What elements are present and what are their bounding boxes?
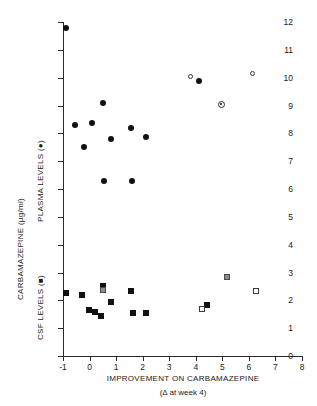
y-axis-tick-label: 1 (253, 324, 293, 333)
data-point (100, 100, 106, 106)
data-point (98, 313, 104, 319)
data-point (86, 307, 92, 313)
y-axis-tick (58, 133, 63, 134)
y-axis-tick (58, 22, 63, 23)
y-axis-tick-label: 6 (253, 185, 293, 194)
data-point (196, 78, 202, 84)
y-axis-tick (58, 189, 63, 190)
x-axis-tick-label: 7 (265, 363, 285, 372)
y-axis-title-plasma: PLASMA LEVELS (●) (36, 140, 45, 222)
y-axis-tick-label: 9 (253, 102, 293, 111)
y-axis-tick (58, 245, 63, 246)
x-axis-tick-label: 5 (212, 363, 232, 372)
data-point (108, 299, 114, 305)
x-axis-tick-label: 3 (159, 363, 179, 372)
x-axis-tick-label: 6 (239, 363, 259, 372)
x-axis-title: IMPROVEMENT ON CARBAMAZEPINE (63, 374, 303, 383)
x-axis-subtitle: (Δ at week 4) (63, 388, 303, 397)
y-axis-title: CARBAMAZEPINE (µg/ml) (16, 198, 25, 300)
data-point (199, 306, 205, 312)
x-axis-tick (169, 356, 170, 361)
y-axis-tick-label: 3 (253, 269, 293, 278)
y-axis-tick (58, 50, 63, 51)
y-axis-tick-label: 10 (253, 74, 293, 83)
x-axis-tick (249, 356, 250, 361)
y-axis-title-csf: CSF LEVELS (■) (36, 275, 45, 340)
data-point (253, 288, 259, 294)
data-point (81, 144, 87, 150)
x-axis-tick-label: 0 (80, 363, 100, 372)
x-axis-tick (302, 356, 303, 361)
y-axis-tick-label: 0 (253, 352, 293, 361)
y-axis-tick-label: 12 (253, 18, 293, 27)
chart-page: 0123456789101112-1012345678 CARBAMAZEPIN… (0, 0, 317, 406)
data-point (143, 310, 149, 316)
data-point (101, 178, 107, 184)
data-point (79, 292, 85, 298)
data-point (108, 136, 114, 142)
y-axis-tick-label: 11 (253, 46, 293, 55)
y-axis-tick-label: 4 (253, 241, 293, 250)
data-point (218, 101, 225, 108)
data-point (63, 25, 69, 31)
y-axis-tick-label: 7 (253, 157, 293, 166)
data-point (100, 287, 106, 293)
y-axis-tick (58, 161, 63, 162)
data-point (130, 310, 136, 316)
x-axis-tick (222, 356, 223, 361)
x-axis-tick-label: 4 (186, 363, 206, 372)
y-axis-tick-label: 2 (253, 296, 293, 305)
x-axis-tick-label: -1 (53, 363, 73, 372)
data-point (128, 125, 134, 131)
y-axis-tick (58, 78, 63, 79)
data-point (89, 120, 95, 126)
y-axis-tick (58, 106, 63, 107)
x-axis-tick-label: 1 (106, 363, 126, 372)
data-point (72, 122, 78, 128)
x-axis-tick-label: 8 (292, 363, 312, 372)
x-axis-tick (63, 356, 64, 361)
y-axis-tick (58, 217, 63, 218)
data-point (204, 302, 210, 308)
data-point (143, 134, 149, 140)
x-axis-tick (116, 356, 117, 361)
x-axis-tick (275, 356, 276, 361)
y-axis-tick (58, 328, 63, 329)
data-point (224, 274, 230, 280)
x-axis-tick (90, 356, 91, 361)
y-axis-tick (58, 300, 63, 301)
y-axis-tick-label: 8 (253, 129, 293, 138)
x-axis-tick-label: 2 (133, 363, 153, 372)
data-point (129, 178, 135, 184)
y-axis-tick-label: 5 (253, 213, 293, 222)
x-axis-tick (196, 356, 197, 361)
y-axis-tick (58, 273, 63, 274)
data-point (63, 290, 69, 296)
plot-area: 0123456789101112-1012345678 (63, 22, 302, 356)
x-axis-tick (143, 356, 144, 361)
data-point (188, 74, 193, 79)
data-point (128, 288, 134, 294)
